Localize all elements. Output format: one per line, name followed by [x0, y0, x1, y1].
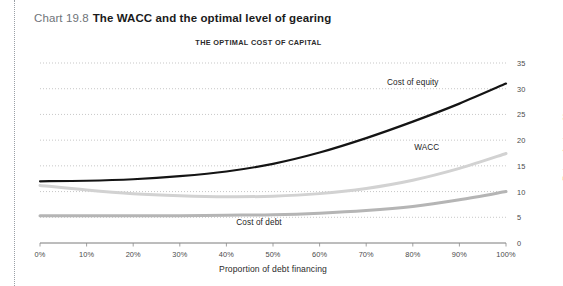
x-axis-title: Proportion of debt financing	[40, 264, 506, 274]
y-tick-label: 20	[517, 136, 525, 145]
axis-group	[40, 243, 506, 247]
series-annotation-wacc: WACC	[414, 143, 439, 152]
x-tick-label: 100%	[496, 250, 515, 259]
y-tick-label: 10	[517, 187, 525, 196]
chart-page: Chart 19.8The WACC and the optimal level…	[0, 0, 563, 286]
x-tick-label: 10%	[79, 250, 94, 259]
plot-area: 0%10%20%30%40%50%60%70%80%90%100% 051015…	[0, 0, 563, 286]
x-tick-label: 60%	[312, 250, 327, 259]
x-tick-label: 0%	[35, 250, 46, 259]
y-tick-label: 30	[517, 84, 525, 93]
series-annotation-cost-of-equity: Cost of equity	[387, 77, 438, 86]
x-tick-label: 50%	[265, 250, 280, 259]
series-line-cost-of-equity	[40, 84, 506, 182]
gridlines-group	[40, 63, 506, 217]
y-tick-label: 5	[517, 213, 521, 222]
x-tick-label: 70%	[359, 250, 374, 259]
x-tick-label: 80%	[405, 250, 420, 259]
y-tick-label: 35	[517, 59, 525, 68]
x-tick-label: 30%	[172, 250, 187, 259]
series-annotation-cost-of-debt: Cost of debt	[236, 218, 281, 227]
chart-svg	[0, 0, 563, 286]
y-tick-label: 25	[517, 110, 525, 119]
x-tick-label: 40%	[219, 250, 234, 259]
y-tick-label: 0	[517, 239, 521, 248]
series-line-wacc	[40, 154, 506, 197]
x-tick-label: 20%	[126, 250, 141, 259]
x-tick-label: 90%	[452, 250, 467, 259]
y-tick-label: 15	[517, 161, 525, 170]
